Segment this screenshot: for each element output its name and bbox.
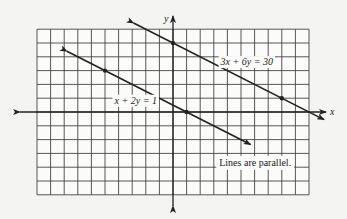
y-axis-label: y <box>163 13 169 24</box>
data-point <box>184 110 188 114</box>
coordinate-plane: xy x + 2y = 13x + 6y = 30Lines are paral… <box>0 0 347 219</box>
annotation-text: Lines are parallel. <box>219 157 291 168</box>
data-point <box>280 96 284 100</box>
series-label-1: x + 2y = 1 <box>114 95 157 106</box>
series-label-2: 3x + 6y = 30 <box>220 56 273 67</box>
data-point <box>103 68 107 72</box>
data-point <box>171 41 175 45</box>
x-axis-label: x <box>329 106 335 117</box>
